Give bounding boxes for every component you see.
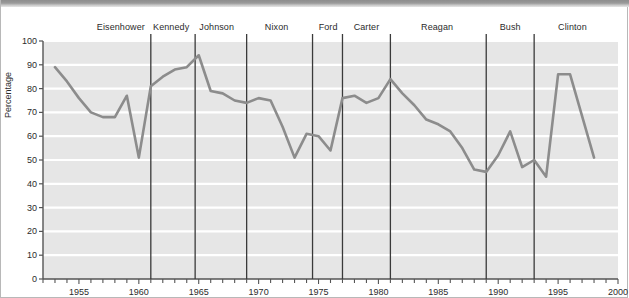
- x-tick-label: 1960: [129, 287, 149, 297]
- y-tick-label: 60: [15, 131, 37, 141]
- x-tick-label: 1980: [368, 287, 388, 297]
- president-label-reagan: Reagan: [421, 22, 453, 32]
- x-tick-label: 1975: [309, 287, 329, 297]
- line-chart-canvas: [1, 0, 629, 298]
- president-label-clinton: Clinton: [558, 22, 587, 32]
- y-tick-label: 10: [15, 250, 37, 260]
- y-tick-label: 100: [15, 36, 37, 46]
- y-tick-label: 90: [15, 60, 37, 70]
- x-tick-label: 1970: [249, 287, 269, 297]
- y-tick-label: 0: [15, 274, 37, 284]
- x-tick-label: 1965: [189, 287, 209, 297]
- x-tick-label: 1985: [428, 287, 448, 297]
- president-label-bush: Bush: [500, 22, 521, 32]
- y-tick-label: 30: [15, 203, 37, 213]
- y-tick-label: 40: [15, 179, 37, 189]
- president-label-johnson: Johnson: [199, 22, 234, 32]
- x-tick-label: 1990: [488, 287, 508, 297]
- president-label-eisenhower: Eisenhower: [97, 22, 145, 32]
- president-label-kennedy: Kennedy: [153, 22, 189, 32]
- president-label-nixon: Nixon: [265, 22, 289, 32]
- president-label-carter: Carter: [354, 22, 380, 32]
- x-tick-label: 1955: [69, 287, 89, 297]
- y-tick-label: 50: [15, 155, 37, 165]
- x-tick-label: 2000: [608, 287, 628, 297]
- x-tick-label: 1995: [548, 287, 568, 297]
- president-label-ford: Ford: [319, 22, 338, 32]
- y-tick-label: 80: [15, 84, 37, 94]
- y-tick-label: 70: [15, 107, 37, 117]
- y-tick-label: 20: [15, 226, 37, 236]
